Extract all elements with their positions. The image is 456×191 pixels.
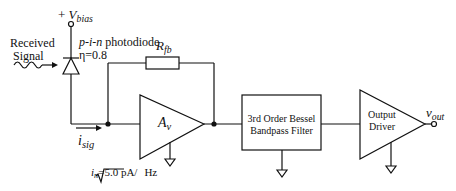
received-signal-label-1: Received [10,37,55,49]
photodiode-label: p-i-n photodiode [79,36,159,48]
vout-terminal [432,122,437,127]
amp-gain-label: Av [158,116,171,133]
vbias-label: + Vbias [58,8,93,24]
efficiency-label: η=0.8 [79,49,107,61]
output-junction [211,121,216,126]
received-signal-label-2: Signal [13,50,44,62]
feedback-resistor [146,57,179,69]
amplifier-triangle [140,95,204,159]
schematic [0,0,456,191]
input-junction [105,121,110,126]
photodiode-icon [63,58,79,74]
driver-label-1: Output [364,110,400,120]
signal-arrow-icon [52,62,58,68]
noise-label: in=5.0 pA/Hz [91,167,157,181]
isig-arrow-icon [96,125,102,131]
filter-label-1: 3rd Order Bessel [242,114,321,124]
driver-label-2: Driver [364,122,400,132]
isig-label: isig [78,134,94,151]
filter-label-2: Bandpass Filter [242,126,321,136]
rfb-label: Rfb [156,39,172,55]
vout-label: vout [426,106,444,122]
